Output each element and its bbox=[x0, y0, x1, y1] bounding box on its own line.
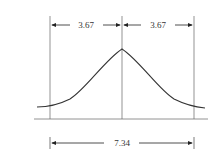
bell-curve bbox=[37, 49, 205, 108]
total-width-label: 7.34 bbox=[114, 138, 130, 148]
bell-curve-diagram: 3.67 3.67 7.34 bbox=[0, 0, 217, 163]
left-half-width-label: 3.67 bbox=[78, 20, 94, 30]
right-half-width-label: 3.67 bbox=[150, 20, 166, 30]
